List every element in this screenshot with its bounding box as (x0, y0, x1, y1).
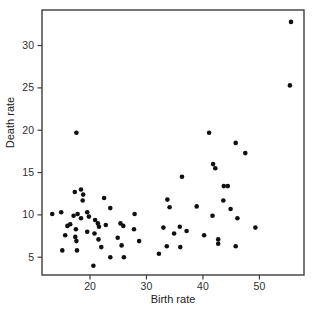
data-point (96, 237, 101, 242)
data-point (60, 248, 65, 253)
y-tick-label: 25 (22, 81, 34, 93)
data-point (81, 192, 86, 197)
data-point (73, 235, 78, 240)
y-tick-label: 30 (22, 39, 34, 51)
data-point (184, 229, 189, 234)
data-point (108, 206, 113, 211)
data-point (178, 224, 183, 229)
data-point (216, 241, 221, 246)
data-point (63, 233, 68, 238)
y-tick-label: 15 (22, 166, 34, 178)
y-tick-label: 10 (22, 208, 34, 220)
data-point (233, 244, 238, 249)
data-point (87, 214, 92, 219)
data-point (226, 184, 231, 189)
data-point (253, 225, 258, 230)
y-tick-label: 20 (22, 124, 34, 136)
data-point (207, 131, 212, 136)
data-point (233, 141, 238, 146)
data-point (211, 162, 216, 167)
data-point (180, 175, 185, 180)
data-point (108, 255, 113, 260)
data-point (243, 151, 248, 156)
data-point (50, 212, 55, 217)
data-point (74, 239, 79, 244)
data-point (122, 255, 127, 260)
data-point (59, 210, 64, 215)
data-point (137, 239, 142, 244)
y-axis-ticks: 51015202530 (22, 39, 42, 263)
data-point (104, 223, 109, 228)
data-points (50, 20, 293, 268)
data-point (161, 225, 166, 230)
x-axis-ticks: 20304050 (84, 275, 265, 292)
data-point (85, 210, 90, 215)
data-point (73, 190, 78, 195)
data-point (68, 222, 73, 227)
data-point (132, 227, 137, 232)
data-point (289, 20, 294, 25)
data-point (235, 216, 240, 221)
data-point (167, 205, 172, 210)
data-point (228, 207, 233, 212)
data-point (194, 204, 199, 209)
data-point (221, 198, 226, 203)
data-point (115, 235, 120, 240)
data-point (210, 213, 215, 218)
data-point (121, 224, 126, 229)
x-tick-label: 50 (254, 280, 266, 292)
data-point (99, 245, 104, 250)
data-point (288, 83, 293, 88)
figure: 20304050 51015202530 Birth rate Death ra… (0, 0, 316, 316)
data-point (75, 212, 80, 217)
data-point (97, 224, 102, 229)
data-point (85, 230, 90, 235)
x-axis-label: Birth rate (151, 293, 196, 305)
data-point (202, 233, 207, 238)
x-tick-label: 20 (84, 280, 96, 292)
data-point (74, 131, 79, 136)
data-point (157, 252, 162, 257)
data-point (172, 231, 177, 236)
data-point (79, 216, 84, 221)
data-point (119, 243, 124, 248)
y-tick-label: 5 (28, 251, 34, 263)
data-point (74, 227, 79, 232)
data-point (71, 213, 76, 218)
data-point (165, 244, 170, 249)
x-tick-label: 30 (141, 280, 153, 292)
data-point (91, 263, 96, 268)
x-tick-label: 40 (197, 280, 209, 292)
data-point (165, 197, 170, 202)
data-point (79, 187, 84, 192)
data-point (213, 166, 218, 171)
data-point (102, 196, 107, 201)
data-point (92, 231, 97, 236)
data-point (222, 184, 227, 189)
data-point (75, 248, 80, 253)
y-axis-label: Death rate (4, 97, 16, 148)
data-point (178, 245, 183, 250)
data-point (80, 198, 85, 203)
data-point (216, 237, 221, 242)
scatter-plot: 20304050 51015202530 Birth rate Death ra… (0, 0, 316, 316)
data-point (132, 212, 137, 217)
